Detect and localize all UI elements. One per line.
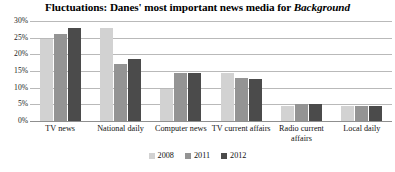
bar-2008[interactable] <box>341 106 354 121</box>
legend-item-2012[interactable]: 2012 <box>221 152 246 160</box>
chart-legend: 200820112012 <box>0 152 395 160</box>
legend-label: 2011 <box>194 152 210 160</box>
x-axis-category-label: Radio current affairs <box>271 124 331 144</box>
bar-group <box>90 21 150 121</box>
bar-group <box>151 21 211 121</box>
x-axis: TV newsNational dailyComputer newsTV cur… <box>30 124 392 150</box>
legend-swatch-icon <box>185 153 191 159</box>
bar-2011[interactable] <box>235 78 248 121</box>
legend-item-2011[interactable]: 2011 <box>185 152 210 160</box>
x-axis-category-label: Local daily <box>332 124 392 134</box>
bar-2008[interactable] <box>221 73 234 121</box>
chart-title-text: Fluctuations: Danes' most important news… <box>45 1 294 13</box>
bar-2012[interactable] <box>128 59 141 121</box>
legend-label: 2008 <box>158 152 174 160</box>
bar-2011[interactable] <box>355 106 368 121</box>
y-axis-tick-label: 0% <box>2 117 28 125</box>
x-axis-category-label: TV current affairs <box>211 124 271 134</box>
bar-2008[interactable] <box>281 106 294 121</box>
bar-2012[interactable] <box>369 106 382 121</box>
y-axis: 30%25%20%15%10%5%0% <box>0 21 28 121</box>
x-axis-category-label: Computer news <box>151 124 211 134</box>
y-axis-tick-label: 25% <box>2 34 28 42</box>
bar-group <box>30 21 90 121</box>
bar-2008[interactable] <box>40 39 53 121</box>
bar-group <box>211 21 271 121</box>
bar-2011[interactable] <box>114 64 127 121</box>
bar-2012[interactable] <box>188 73 201 121</box>
bar-group <box>271 21 331 121</box>
chart-title: Fluctuations: Danes' most important news… <box>0 1 395 13</box>
bar-2008[interactable] <box>160 89 173 121</box>
y-axis-tick-label: 15% <box>2 67 28 75</box>
chart-title-emphasis: Background <box>294 1 350 13</box>
bar-2012[interactable] <box>249 79 262 121</box>
bar-2008[interactable] <box>100 28 113 121</box>
legend-swatch-icon <box>221 153 227 159</box>
gridline-0pct <box>30 121 392 122</box>
legend-label: 2012 <box>230 152 246 160</box>
bars-layer <box>30 21 392 121</box>
bar-2011[interactable] <box>54 34 67 121</box>
bar-2012[interactable] <box>309 104 322 121</box>
y-axis-tick-label: 20% <box>2 50 28 58</box>
x-axis-category-label: TV news <box>30 124 90 134</box>
y-axis-tick-label: 5% <box>2 100 28 108</box>
chart-container: Fluctuations: Danes' most important news… <box>0 0 395 172</box>
y-axis-tick-label: 30% <box>2 17 28 25</box>
y-axis-tick-label: 10% <box>2 84 28 92</box>
legend-swatch-icon <box>149 153 155 159</box>
bar-2011[interactable] <box>295 104 308 121</box>
bar-group <box>332 21 392 121</box>
bar-2012[interactable] <box>68 28 81 121</box>
legend-item-2008[interactable]: 2008 <box>149 152 174 160</box>
bar-2011[interactable] <box>174 73 187 121</box>
x-axis-category-label: National daily <box>90 124 150 134</box>
